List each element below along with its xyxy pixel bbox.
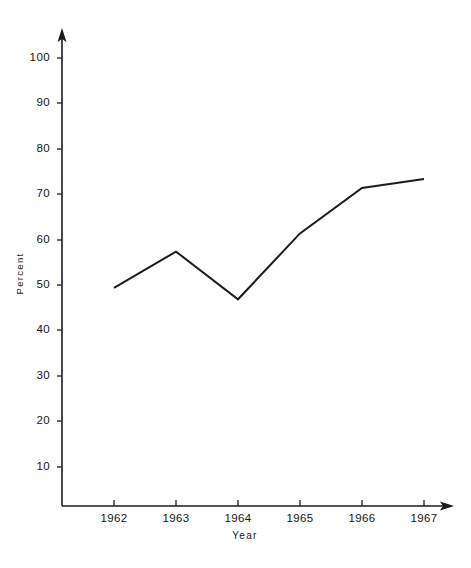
y-tick-label-30: 30 — [16, 369, 50, 383]
x-tick-label-1963: 1963 — [151, 512, 201, 524]
x-tick-label-1962: 1962 — [89, 512, 139, 524]
y-tick-label-10: 10 — [16, 460, 50, 474]
y-tick-label-90: 90 — [16, 96, 50, 110]
y-tick-label-80: 80 — [16, 142, 50, 156]
plot-area — [0, 0, 471, 568]
x-tick-label-1964: 1964 — [213, 512, 263, 524]
y-axis-title: Percent — [14, 244, 25, 304]
x-tick-marks — [114, 500, 424, 506]
chart-container: 100 90 80 70 60 50 40 30 20 10 1962 1963… — [0, 0, 471, 568]
y-tick-label-100: 100 — [16, 51, 50, 65]
y-tick-label-40: 40 — [16, 323, 50, 337]
x-tick-label-1967: 1967 — [399, 512, 449, 524]
y-tick-label-20: 20 — [16, 414, 50, 428]
x-tick-label-1966: 1966 — [337, 512, 387, 524]
x-tick-label-1965: 1965 — [275, 512, 325, 524]
x-axis-title: Year — [185, 530, 305, 541]
data-series-line — [114, 179, 424, 299]
y-tick-label-70: 70 — [16, 187, 50, 201]
